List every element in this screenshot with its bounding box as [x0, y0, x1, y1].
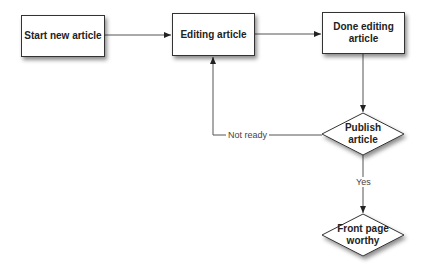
node-label-line1: Front page — [337, 223, 389, 235]
node-label-line2: article — [348, 134, 377, 146]
node-label-line2: article — [349, 33, 378, 45]
node-done-editing-article: Done editing article — [322, 12, 405, 54]
node-label: Start new article — [24, 30, 101, 42]
edge-label-yes: Yes — [354, 177, 373, 187]
node-label-line1: Done editing — [333, 21, 394, 33]
edge-publish-to-editing — [213, 57, 322, 135]
node-start-new-article: Start new article — [21, 15, 105, 57]
node-editing-article: Editing article — [172, 13, 255, 56]
node-label: Editing article — [180, 29, 246, 41]
label-publish-article: Publish article — [322, 113, 404, 155]
node-label-line2: worthy — [347, 235, 380, 247]
node-label-line1: Publish — [345, 122, 381, 134]
label-front-page-worthy: Front page worthy — [322, 214, 404, 256]
edge-label-not-ready: Not ready — [226, 130, 269, 140]
